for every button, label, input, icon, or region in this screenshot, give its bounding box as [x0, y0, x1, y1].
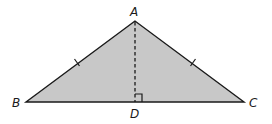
triangle-diagram: A B C D — [0, 0, 272, 124]
vertex-label-a: A — [129, 5, 138, 19]
vertex-label-c: C — [249, 96, 258, 110]
vertex-label-b: B — [12, 96, 20, 110]
vertex-label-d: D — [130, 107, 139, 121]
